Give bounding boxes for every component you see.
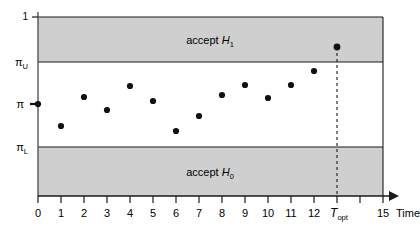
x-axis-title: Time [396, 208, 420, 219]
x-axis-arrow-head [389, 191, 399, 201]
x-axis-ticks [38, 196, 383, 203]
data-point [288, 82, 294, 88]
x-tick-label-5: 5 [150, 208, 156, 219]
y-tick-label-pi-lower: πL [2, 142, 28, 153]
data-point [35, 101, 41, 107]
data-point [334, 44, 341, 51]
h-subscript-lower: 0 [230, 171, 234, 180]
pi-subscript-lower: L [24, 146, 28, 155]
data-point [127, 83, 133, 89]
data-point [196, 113, 202, 119]
data-point [104, 107, 110, 113]
x-tick-label-11: 11 [285, 208, 296, 219]
data-point [311, 68, 317, 74]
data-point [58, 123, 64, 129]
topt-subscript: opt [337, 213, 347, 222]
accept-text-lower: accept [186, 166, 221, 178]
data-point [150, 98, 156, 104]
x-tick-label-2: 2 [81, 208, 87, 219]
x-tick-label-4: 4 [127, 208, 133, 219]
x-tick-label-3: 3 [104, 208, 110, 219]
x-tick-label-10: 10 [262, 208, 274, 219]
pi-symbol: π [16, 98, 24, 110]
accept-text-upper: accept [186, 34, 221, 46]
y-tick-label-pi-upper: πU [2, 57, 28, 68]
x-tick-label-6: 6 [173, 208, 179, 219]
x-tick-label-topt: Topt [330, 207, 348, 219]
h-subscript-upper: 1 [230, 39, 234, 48]
y-tick-label-one: 1 [6, 12, 28, 22]
data-point [81, 94, 87, 100]
x-tick-label-9: 9 [242, 208, 248, 219]
pi-symbol-lower: π [16, 141, 24, 153]
label-accept-h0: accept H0 [186, 167, 234, 178]
label-accept-h1: accept H1 [186, 35, 234, 46]
data-point [265, 95, 271, 101]
x-tick-label-0: 0 [35, 208, 41, 219]
data-point [242, 82, 248, 88]
y-tick-label-pi: π [2, 99, 24, 110]
pi-symbol-upper: π [15, 56, 23, 68]
x-tick-label-1: 1 [58, 208, 64, 219]
x-tick-label-12: 12 [308, 208, 320, 219]
x-tick-label-8: 8 [219, 208, 225, 219]
x-tick-label-15: 15 [377, 208, 389, 219]
x-tick-label-7: 7 [196, 208, 202, 219]
data-point [173, 128, 179, 134]
data-point [219, 92, 225, 98]
pi-subscript-upper: U [23, 61, 28, 70]
